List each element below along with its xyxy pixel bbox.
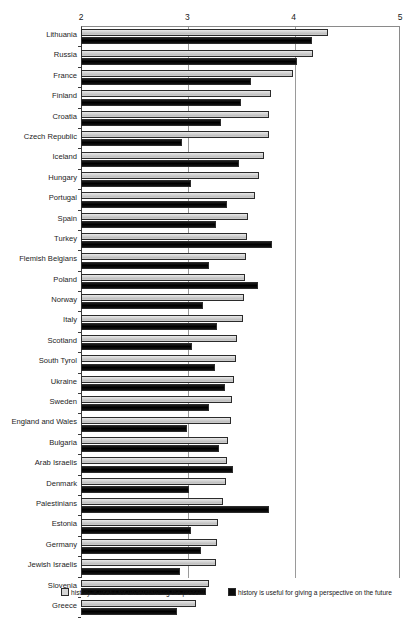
bar-future [81, 343, 192, 350]
y-axis-label-palestinians: Palestinians [36, 499, 77, 508]
bar-row: Hungary [81, 170, 400, 190]
bar-present [81, 580, 209, 587]
y-axis-label-germany: Germany [46, 540, 77, 549]
bar-future [81, 302, 203, 309]
bar-present [81, 478, 226, 485]
y-axis-label-ukraine: Ukraine [51, 377, 77, 386]
bar-present [81, 213, 248, 220]
y-axis-label-czech-republic: Czech Republic [24, 132, 77, 141]
bar-future [81, 404, 209, 411]
y-axis-label-portugal: Portugal [49, 193, 77, 202]
bar-present [81, 152, 264, 159]
bar-present [81, 274, 245, 281]
y-axis-label-spain: Spain [58, 214, 77, 223]
x-axis-tick-4: 4 [291, 12, 296, 22]
y-axis-label-greece: Greece [52, 601, 77, 610]
bar-future [81, 282, 258, 289]
bar-row: Poland [81, 272, 400, 292]
bar-present [81, 253, 246, 260]
bar-rows: LithuaniaRussiaFranceFinlandCroatiaCzech… [81, 27, 400, 578]
y-axis-label-italy: Italy [63, 315, 77, 324]
bar-future [81, 201, 227, 208]
clipped-title [0, 0, 414, 5]
bar-future [81, 568, 180, 575]
bar-row: Germany [81, 537, 400, 557]
bar-row: Palestinians [81, 496, 400, 516]
y-axis-label-france: France [53, 71, 77, 80]
bar-row: Denmark [81, 476, 400, 496]
bar-present [81, 111, 269, 118]
y-axis-label-lithuania: Lithuania [46, 30, 77, 39]
bar-row: Norway [81, 292, 400, 312]
bar-future [81, 139, 182, 146]
bar-row: Flemish Belgians [81, 251, 400, 271]
bar-present [81, 519, 218, 526]
bar-future [81, 180, 191, 187]
y-axis-label-croatia: Croatia [53, 112, 77, 121]
bar-future [81, 78, 251, 85]
legend-swatch-dark-icon [228, 588, 236, 596]
bar-present [81, 335, 237, 342]
y-axis-label-jewish-israelis: Jewish Israelis [28, 560, 77, 569]
y-axis-label-turkey: Turkey [54, 234, 77, 243]
legend-item-present: history is useful for understanding the … [61, 588, 204, 596]
y-axis-label-bulgaria: Bulgaria [49, 438, 77, 447]
bar-present [81, 29, 328, 36]
bar-future [81, 262, 209, 269]
bar-present [81, 437, 228, 444]
bar-present [81, 315, 243, 322]
bar-row: France [81, 68, 400, 88]
y-axis-label-arab-israelis: Arab Israelis [35, 458, 77, 467]
y-axis-label-poland: Poland [53, 275, 77, 284]
bar-row: Croatia [81, 109, 400, 129]
bar-future [81, 486, 189, 493]
y-axis-label-flemish-belgians: Flemish Belgians [19, 254, 77, 263]
bar-row: Czech Republic [81, 129, 400, 149]
bar-future [81, 364, 215, 371]
bar-future [81, 37, 312, 44]
y-axis-label-hungary: Hungary [48, 173, 77, 182]
bar-future [81, 466, 233, 473]
bar-present [81, 376, 234, 383]
y-axis-label-estonia: Estonia [52, 519, 77, 528]
bar-row: Spain [81, 211, 400, 231]
chart-legend: history is useful for understanding the … [0, 588, 414, 602]
bar-present [81, 559, 216, 566]
bar-future [81, 445, 219, 452]
y-axis-label-russia: Russia [54, 50, 77, 59]
bar-row: Arab Israelis [81, 455, 400, 475]
bar-row: Russia [81, 47, 400, 67]
bar-future [81, 58, 297, 65]
bar-row: Jewish Israelis [81, 557, 400, 577]
y-axis-label-south-tyrol: South Tyrol [39, 356, 77, 365]
legend-swatch-light-icon [61, 588, 69, 596]
bar-present [81, 70, 293, 77]
x-axis-tick-5: 5 [398, 12, 403, 22]
bar-present [81, 539, 217, 546]
bar-future [81, 425, 187, 432]
bar-row: Finland [81, 88, 400, 108]
bar-row: Sweden [81, 394, 400, 414]
bar-present [81, 50, 313, 57]
y-axis-label-finland: Finland [52, 91, 77, 100]
bar-present [81, 498, 223, 505]
bar-present [81, 192, 255, 199]
y-axis-label-norway: Norway [51, 295, 77, 304]
bar-row: Portugal [81, 190, 400, 210]
bar-future [81, 221, 216, 228]
legend-label-future: history is useful for giving a perspecti… [238, 589, 392, 596]
bar-present [81, 457, 227, 464]
legend-item-future: history is useful for giving a perspecti… [228, 588, 392, 596]
y-axis-label-sweden: Sweden [50, 397, 77, 406]
bar-future [81, 384, 225, 391]
bar-row: Ukraine [81, 374, 400, 394]
bar-future [81, 527, 191, 534]
bar-row: Lithuania [81, 27, 400, 47]
bar-future [81, 547, 201, 554]
bar-row: Italy [81, 312, 400, 332]
bar-present [81, 396, 232, 403]
legend-label-present: history is useful for understanding the … [71, 589, 204, 596]
bar-future [81, 119, 221, 126]
x-axis-tick-2: 2 [79, 12, 84, 22]
